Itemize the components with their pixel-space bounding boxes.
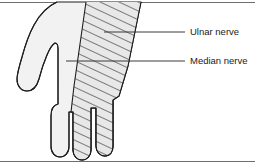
nerve-distribution-figure: Ulnar nerve Median nerve xyxy=(0,0,255,163)
ulnar-nerve-label: Ulnar nerve xyxy=(190,26,239,37)
median-nerve-label: Median nerve xyxy=(190,55,248,66)
figure-svg: Ulnar nerve Median nerve xyxy=(0,0,255,163)
